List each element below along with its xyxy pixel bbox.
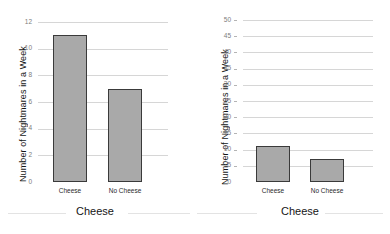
bar [53, 35, 87, 182]
gridline [243, 85, 373, 86]
right-chart-x-axis-title: Cheese [225, 205, 375, 217]
y-axis-tick-label: 50 [209, 17, 231, 24]
gridline [243, 36, 373, 37]
x-axis-category-label: No Cheese [95, 188, 155, 195]
y-axis-tick-label: 0 [10, 179, 32, 186]
y-axis-tick-mark [234, 101, 237, 102]
gridline [243, 20, 373, 21]
y-axis-tick-mark [234, 20, 237, 21]
y-axis-tick-label: 45 [209, 33, 231, 40]
bar [256, 146, 290, 182]
left-chart-panel: Number of Nightmares in a Week Cheese 02… [0, 0, 195, 234]
y-axis-tick-label: 12 [10, 19, 32, 26]
y-axis-tick-mark [234, 52, 237, 53]
two-panel-bar-chart-figure: Number of Nightmares in a Week Cheese 02… [0, 0, 390, 234]
gridline [243, 52, 373, 53]
y-axis-tick-label: 15 [209, 130, 231, 137]
y-axis-tick-mark [234, 85, 237, 86]
gridline [38, 22, 168, 23]
y-axis-tick-label: 2 [10, 152, 32, 159]
y-axis-tick-label: 4 [10, 125, 32, 132]
y-axis-tick-mark [234, 69, 237, 70]
left-panel-bottom-rule [8, 213, 66, 214]
right-chart-panel: Number of Nightmares in a Week Cheese 05… [195, 0, 390, 234]
y-axis-tick-mark [234, 133, 237, 134]
y-axis-tick-label: 5 [209, 162, 231, 169]
gridline [243, 101, 373, 102]
y-axis-tick-label: 8 [10, 72, 32, 79]
gridline [243, 69, 373, 70]
x-axis-category-label: Cheese [243, 188, 303, 195]
right-panel-bottom-rule-right [325, 213, 383, 214]
y-axis-tick-label: 30 [209, 81, 231, 88]
x-axis-category-label: Cheese [40, 188, 100, 195]
y-axis-tick-mark [234, 166, 237, 167]
y-axis-tick-label: 0 [209, 179, 231, 186]
y-axis-tick-label: 10 [209, 146, 231, 153]
y-axis-tick-label: 20 [209, 114, 231, 121]
y-axis-tick-label: 25 [209, 98, 231, 105]
y-axis-tick-label: 35 [209, 65, 231, 72]
bar [310, 159, 344, 182]
left-chart-y-axis-title: Number of Nightmares in a Week [18, 34, 28, 182]
y-axis-tick-label: 10 [10, 45, 32, 52]
gridline [243, 133, 373, 134]
right-panel-bottom-rule [197, 213, 257, 214]
y-axis-tick-mark [234, 117, 237, 118]
y-axis-tick-mark [234, 150, 237, 151]
x-axis-category-label: No Cheese [297, 188, 357, 195]
y-axis-tick-mark [234, 36, 237, 37]
left-chart-x-axis-title: Cheese [20, 205, 170, 217]
left-panel-bottom-rule-right [128, 213, 190, 214]
y-axis-tick-label: 6 [10, 99, 32, 106]
gridline [243, 117, 373, 118]
bar [108, 89, 142, 182]
y-axis-tick-label: 40 [209, 49, 231, 56]
